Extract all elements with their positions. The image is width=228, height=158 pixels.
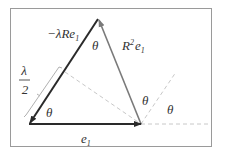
label-e1: e1 bbox=[81, 131, 91, 148]
label-R2-e1: R2e1 bbox=[121, 38, 145, 55]
label-lambda: λ bbox=[20, 63, 27, 78]
label-neg-lambda-R-e1: −λRe1 bbox=[47, 26, 79, 43]
dashed-bisector-line bbox=[65, 72, 141, 124]
vector-R2-e1 bbox=[99, 20, 141, 124]
frame-border bbox=[11, 9, 212, 147]
label-theta-right-outer: θ bbox=[167, 102, 174, 117]
label-two: 2 bbox=[22, 82, 29, 97]
lambda-half-bracket bbox=[24, 67, 62, 117]
label-theta-top: θ bbox=[92, 38, 99, 53]
label-theta-bottom-left: θ bbox=[46, 105, 53, 120]
label-theta-right-inner: θ bbox=[142, 93, 149, 108]
triangle-vector-diagram: −λRe1 R2e1 e1 λ 2 θ θ θ θ bbox=[0, 0, 228, 158]
